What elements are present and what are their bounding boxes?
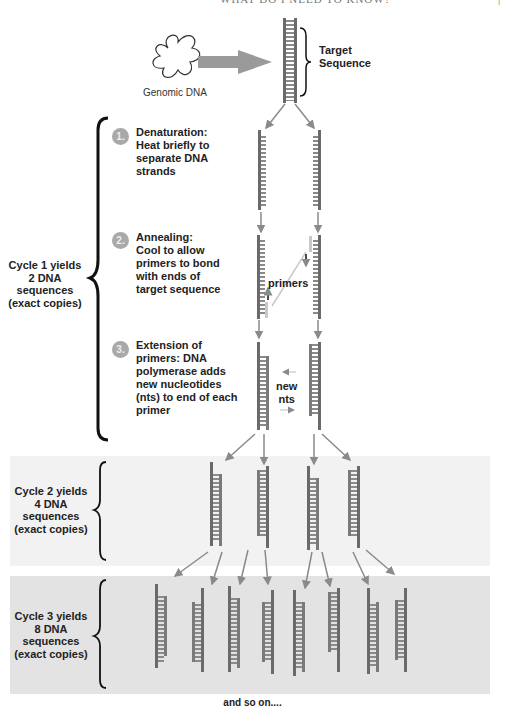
step-3-text: Extension of primers: DNA polymerase add… xyxy=(136,339,266,417)
step-line: new nucleotides xyxy=(136,378,266,391)
step-line: target sequence xyxy=(136,283,266,296)
step-line: Heat briefly to xyxy=(136,139,266,152)
cycle-line: 8 DNA xyxy=(6,623,96,636)
target-sequence-label: Target Sequence xyxy=(319,44,371,70)
step-2-text: Annealing: Cool to allow primers to bond… xyxy=(136,231,266,296)
step-1-badge: 1. xyxy=(112,128,129,145)
cycle-line: (exact copies) xyxy=(0,297,90,310)
cycle-3-strands xyxy=(155,584,407,676)
genomic-dna-label: Genomic DNA xyxy=(143,87,207,98)
cycle-2-strands xyxy=(210,462,360,550)
cycle-line: sequences xyxy=(6,635,96,648)
step-line: (nts) to end of each xyxy=(136,391,266,404)
target-dna-icon xyxy=(283,18,297,103)
step-line: separate DNA xyxy=(136,152,266,165)
cycle-line: (exact copies) xyxy=(6,648,96,661)
cycle-line: Cycle 1 yields xyxy=(0,259,90,272)
step-line: primers to bond xyxy=(136,257,266,270)
step-line: strands xyxy=(136,165,266,178)
step-1-text: Denaturation: Heat briefly to separate D… xyxy=(136,126,266,178)
genomic-dna-icon xyxy=(153,35,200,77)
cycle-2-label: Cycle 2 yields 4 DNA sequences (exact co… xyxy=(6,485,96,535)
step-line: Denaturation: xyxy=(136,126,266,139)
target-label-line2: Sequence xyxy=(319,57,371,70)
denatured-strands xyxy=(258,130,321,210)
step-line: Annealing: xyxy=(136,231,266,244)
and-so-on-caption: and so on.... xyxy=(0,697,505,708)
new-nts-label: new nts xyxy=(276,380,297,406)
step-line: Cool to allow xyxy=(136,244,266,257)
step-line: primers: DNA xyxy=(136,352,266,365)
step-line: with ends of xyxy=(136,270,266,283)
cycle-line: 2 DNA xyxy=(0,272,90,285)
primers-label: primers xyxy=(268,277,308,290)
arrow-to-target xyxy=(198,50,272,74)
cycle-line: (exact copies) xyxy=(6,523,96,536)
cycle-line: 4 DNA xyxy=(6,498,96,511)
step-line: primer xyxy=(136,404,266,417)
cycle-line: Cycle 2 yields xyxy=(6,485,96,498)
cycle-line: sequences xyxy=(0,284,90,297)
step-3-badge: 3. xyxy=(112,341,129,358)
cycle-1-brace xyxy=(90,118,108,440)
step-2-badge: 2. xyxy=(112,232,129,249)
cycle-line: Cycle 3 yields xyxy=(6,610,96,623)
target-label-line1: Target xyxy=(319,44,371,57)
new-nts-line1: new xyxy=(276,380,297,393)
cycle-line: sequences xyxy=(6,510,96,523)
cycle-1-label: Cycle 1 yields 2 DNA sequences (exact co… xyxy=(0,259,90,309)
step-line: Extension of xyxy=(136,339,266,352)
target-brace xyxy=(300,28,311,96)
cycle-3-label: Cycle 3 yields 8 DNA sequences (exact co… xyxy=(6,610,96,660)
new-nts-line2: nts xyxy=(276,393,297,406)
step-line: polymerase adds xyxy=(136,365,266,378)
